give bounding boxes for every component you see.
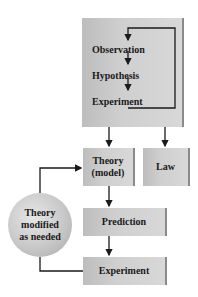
feedback-top-line [40, 168, 81, 193]
loop-line [128, 28, 175, 108]
feedback-bottom-line [40, 257, 83, 271]
connector-lines [0, 0, 198, 297]
